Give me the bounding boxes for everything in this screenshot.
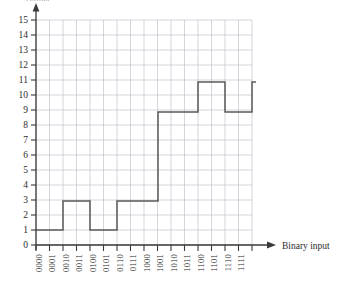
y-tick-label: 15: [19, 15, 29, 25]
x-tick-label: 1001: [155, 254, 165, 272]
x-axis-arrowhead: [267, 241, 276, 248]
x-tick-label: 1111: [236, 254, 246, 271]
y-tick-label: 2: [23, 210, 28, 220]
y-tick-label: 3: [23, 195, 28, 205]
x-tick-label: 1010: [169, 254, 179, 272]
x-axis-tick-labels: 0000 0001 0010 0011 0100 0101 0110 0111 …: [34, 254, 247, 272]
y-tick-label: 4: [23, 180, 28, 190]
y-axis-label-clipped: Output: [26, 0, 50, 1]
x-axis-ticks: [36, 245, 252, 251]
y-tick-label: 1: [23, 225, 28, 235]
y-tick-label: 6: [23, 150, 28, 160]
y-tick-label: 14: [19, 30, 29, 40]
y-tick-label: 7: [23, 135, 28, 145]
step-chart-svg: 0 1 2 3 4 5 6 7 8 9 10 11 12 13 14 15: [0, 0, 337, 285]
x-tick-label: 1011: [182, 254, 192, 272]
x-tick-label: 0010: [61, 254, 71, 272]
y-tick-label: 10: [19, 90, 29, 100]
x-tick-label: 1000: [142, 254, 152, 272]
x-tick-label: 0001: [47, 254, 57, 272]
y-tick-label: 12: [19, 60, 29, 70]
y-axis-ticks: [31, 20, 36, 245]
y-tick-label: 9: [23, 105, 28, 115]
y-axis-tick-labels: 0 1 2 3 4 5 6 7 8 9 10 11 12 13 14 15: [19, 15, 29, 250]
x-tick-label: 1100: [196, 254, 206, 272]
y-tick-label: 8: [23, 120, 28, 130]
x-tick-label: 1101: [209, 254, 219, 272]
x-tick-label: 0111: [128, 254, 138, 271]
chart-figure: Output: [0, 0, 337, 285]
y-tick-label: 5: [23, 165, 28, 175]
x-axis-title: Binary input: [282, 241, 330, 251]
y-tick-label: 11: [19, 75, 28, 85]
x-tick-label: 0000: [34, 254, 44, 272]
x-tick-label: 1110: [223, 254, 233, 271]
y-tick-label: 13: [19, 45, 29, 55]
y-axis-arrowhead: [33, 3, 40, 12]
y-tick-label: 0: [23, 240, 28, 250]
x-tick-label: 0100: [88, 254, 98, 272]
x-tick-label: 0110: [115, 254, 125, 272]
x-tick-label: 0011: [74, 254, 84, 272]
x-tick-label: 0101: [101, 254, 111, 272]
